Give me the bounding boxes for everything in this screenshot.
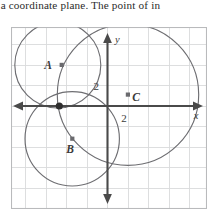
intersection-point (56, 102, 63, 109)
body-text-line: n a coordinate plane. The point of in (0, 0, 160, 11)
x-tick-label-2: 2 (121, 112, 127, 124)
plot-background (12, 28, 207, 209)
y-tick-label-2: 2 (94, 80, 100, 92)
point-marker-a (60, 63, 64, 67)
point-marker-b (70, 137, 74, 141)
point-label-a: A (43, 59, 52, 71)
figure-page: n a coordinate plane. The point of in (0, 0, 215, 215)
y-axis-label: y (114, 34, 120, 45)
point-label-b: B (65, 143, 74, 155)
point-label-c: C (132, 91, 140, 103)
coordinate-plane-figure: A B C 2 2 y x (11, 27, 207, 209)
body-text-fragment: n a coordinate plane. The point of in (0, 0, 215, 13)
x-axis-label: x (193, 110, 199, 121)
point-marker-c (126, 93, 130, 97)
